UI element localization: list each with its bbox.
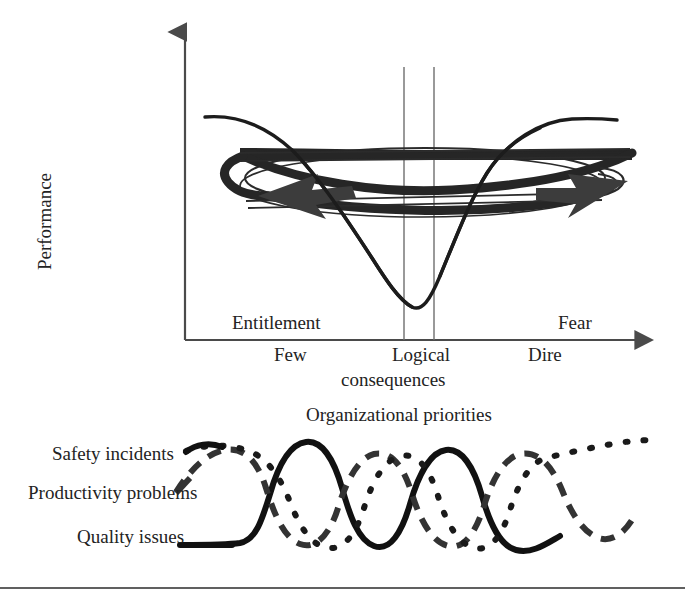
wave-dashed-productivity-problems [176, 449, 632, 546]
y-axis-label: Performance [35, 142, 54, 302]
x-axis-tick-label-few: Few [274, 345, 307, 364]
helix-coil [224, 148, 632, 219]
x-axis-tick-label-logical: Logical [392, 345, 450, 364]
figure-root: Performance Entitlement Fear Few Logical… [0, 0, 685, 595]
figure-canvas [0, 0, 685, 595]
x-axis-title: consequences [341, 370, 445, 389]
wave-legend-label-productivity-problems: Productivity problems [28, 483, 197, 502]
x-axis-upper-label-entitlement: Entitlement [232, 313, 321, 332]
wave-legend-label-safety-incidents: Safety incidents [52, 444, 174, 463]
wave-panel-title: Organizational priorities [306, 405, 492, 424]
x-axis-tick-label-dire: Dire [528, 345, 562, 364]
wave-panel-graphics [176, 440, 656, 551]
wave-legend-label-quality-issues: Quality issues [77, 527, 184, 546]
x-axis-upper-label-fear: Fear [558, 313, 592, 332]
